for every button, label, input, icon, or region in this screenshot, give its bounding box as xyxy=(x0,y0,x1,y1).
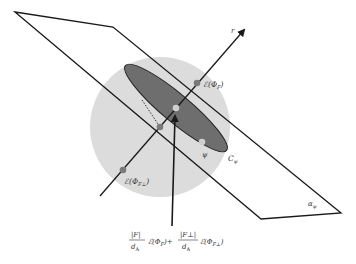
point-axis-intersection xyxy=(157,124,164,131)
frac2-numerator: |F⊥| xyxy=(180,231,196,239)
term2: ℰ(ΦF⊥) xyxy=(200,238,224,247)
point-center xyxy=(173,105,180,112)
frac1-denominator: dA xyxy=(131,243,139,252)
label-plane: αψ xyxy=(308,200,317,210)
label-curve-C: Cψ xyxy=(228,154,238,165)
point-psi xyxy=(199,139,206,146)
label-point-Fperp: ℰ(ΦF⊥) xyxy=(124,177,149,187)
point-E-Phi-Fperp xyxy=(120,167,127,174)
term1: ℰ(ΦF)+ xyxy=(148,238,173,247)
frac1-numerator: |F| xyxy=(131,231,141,239)
label-axis-r: r xyxy=(231,27,235,35)
formula: |F| dA ℰ(ΦF)+ |F⊥| dA ℰ(ΦF⊥) xyxy=(129,231,224,252)
point-E-Phi-F xyxy=(194,80,201,87)
diagram-canvas: r ℰ(ΦF) ψ Cψ ℰ(ΦF⊥) αψ |F| dA ℰ(ΦF)+ |F⊥… xyxy=(0,0,356,264)
frac2-denominator: dA xyxy=(182,243,190,252)
label-psi: ψ xyxy=(202,151,208,159)
label-point-F: ℰ(ΦF) xyxy=(203,80,224,90)
